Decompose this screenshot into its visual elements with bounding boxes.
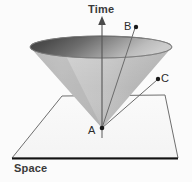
point-label-c: C bbox=[161, 72, 169, 84]
lightcone-diagram: Time Space B C A bbox=[0, 0, 192, 182]
point-c-dot bbox=[156, 77, 160, 81]
time-axis-label: Time bbox=[88, 3, 114, 15]
point-label-a: A bbox=[88, 124, 95, 136]
space-axis-label: Space bbox=[14, 162, 47, 174]
point-a-dot bbox=[100, 126, 105, 131]
point-b-dot bbox=[134, 25, 138, 29]
point-label-b: B bbox=[124, 20, 131, 32]
lightcone-graphic bbox=[0, 0, 192, 182]
time-axis-arrowhead bbox=[98, 16, 106, 25]
